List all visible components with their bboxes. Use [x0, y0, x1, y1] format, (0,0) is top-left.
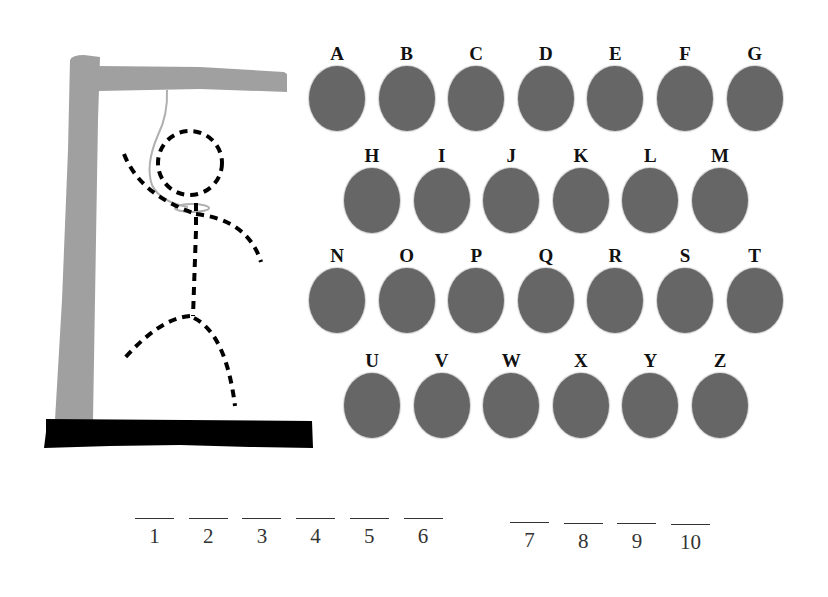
letter-button-p[interactable]: P [447, 246, 505, 336]
slot-underline [189, 518, 228, 519]
letter-label: N [308, 246, 366, 266]
gallows-base-icon [44, 419, 313, 448]
letter-circle-icon[interactable] [692, 168, 748, 233]
letter-circle-icon[interactable] [587, 268, 643, 333]
letter-circle-icon[interactable] [727, 66, 783, 131]
slot-underline [242, 518, 281, 519]
letter-circle-icon[interactable] [727, 268, 783, 333]
letter-circle-icon[interactable] [309, 66, 365, 131]
slot-number: 3 [242, 525, 281, 547]
letter-circle-icon[interactable] [483, 168, 539, 233]
gallows-post-icon [55, 55, 100, 420]
letter-label: O [378, 246, 436, 266]
letter-circle-icon[interactable] [518, 66, 574, 131]
letter-circle-icon[interactable] [414, 168, 470, 233]
letter-button-s[interactable]: S [656, 246, 714, 336]
slot-underline [296, 518, 335, 519]
letter-circle-icon[interactable] [553, 168, 609, 233]
letter-button-g[interactable]: G [726, 44, 784, 134]
letter-label: E [586, 44, 644, 64]
letter-label: F [656, 44, 714, 64]
hangman-game: ABCDEFGHIJKLMNOPQRSTUVWXYZ 12345678910 [0, 0, 828, 597]
right-leg-icon [194, 318, 235, 406]
letter-button-f[interactable]: F [656, 44, 714, 134]
letter-button-t[interactable]: T [726, 246, 784, 336]
letter-button-z[interactable]: Z [691, 351, 749, 441]
letter-label: Q [517, 246, 575, 266]
letter-circle-icon[interactable] [448, 66, 504, 131]
letter-button-r[interactable]: R [586, 246, 644, 336]
letter-label: B [378, 44, 436, 64]
letter-circle-icon[interactable] [448, 268, 504, 333]
letter-button-j[interactable]: J [482, 146, 540, 236]
letter-circle-icon[interactable] [414, 373, 470, 438]
letter-circle-icon[interactable] [622, 168, 678, 233]
letter-button-w[interactable]: W [482, 351, 540, 441]
letter-label: Y [621, 351, 679, 371]
letter-button-c[interactable]: C [447, 44, 505, 134]
right-arm-icon [196, 214, 261, 262]
letter-circle-icon[interactable] [379, 268, 435, 333]
letter-button-l[interactable]: L [621, 146, 679, 236]
gallows-beam-icon [98, 66, 287, 92]
slot-underline [350, 518, 389, 519]
letter-button-e[interactable]: E [586, 44, 644, 134]
letter-circle-icon[interactable] [692, 373, 748, 438]
letter-button-q[interactable]: Q [517, 246, 575, 336]
letter-label: Z [691, 351, 749, 371]
letter-label: H [343, 146, 401, 166]
letter-button-k[interactable]: K [552, 146, 610, 236]
letter-circle-icon[interactable] [657, 268, 713, 333]
head-icon [158, 131, 222, 195]
letter-button-b[interactable]: B [378, 44, 436, 134]
letter-label: P [447, 246, 505, 266]
slot-underline [135, 518, 174, 519]
letter-button-v[interactable]: V [413, 351, 471, 441]
letter-circle-icon[interactable] [553, 373, 609, 438]
slot-number: 2 [189, 525, 228, 547]
letter-label: U [343, 351, 401, 371]
slot-number: 5 [350, 525, 389, 547]
slot-underline [564, 523, 603, 524]
letter-label: K [552, 146, 610, 166]
letter-circle-icon[interactable] [379, 66, 435, 131]
letter-label: W [482, 351, 540, 371]
letter-button-x[interactable]: X [552, 351, 610, 441]
noose-loop-icon [175, 204, 209, 212]
letter-button-o[interactable]: O [378, 246, 436, 336]
letter-circle-icon[interactable] [622, 373, 678, 438]
letter-label: V [413, 351, 471, 371]
slot-number: 7 [510, 529, 549, 551]
slot-number: 1 [135, 525, 174, 547]
letter-label: M [691, 146, 749, 166]
slot-number: 9 [617, 530, 656, 552]
letter-label: R [586, 246, 644, 266]
letter-button-u[interactable]: U [343, 351, 401, 441]
letter-circle-icon[interactable] [657, 66, 713, 131]
letter-label: C [447, 44, 505, 64]
letter-circle-icon[interactable] [587, 66, 643, 131]
letter-label: L [621, 146, 679, 166]
letter-label: X [552, 351, 610, 371]
letter-button-n[interactable]: N [308, 246, 366, 336]
left-leg-icon [123, 316, 190, 360]
body-icon [193, 203, 196, 316]
letter-button-d[interactable]: D [517, 44, 575, 134]
letter-circle-icon[interactable] [483, 373, 539, 438]
letter-label: G [726, 44, 784, 64]
letter-circle-icon[interactable] [518, 268, 574, 333]
slot-underline [510, 522, 549, 523]
slot-number: 8 [564, 530, 603, 552]
letter-button-m[interactable]: M [691, 146, 749, 236]
letter-circle-icon[interactable] [309, 268, 365, 333]
letter-circle-icon[interactable] [344, 168, 400, 233]
letter-button-h[interactable]: H [343, 146, 401, 236]
letter-button-i[interactable]: I [413, 146, 471, 236]
slot-underline [671, 524, 710, 525]
letter-button-a[interactable]: A [308, 44, 366, 134]
letter-label: S [656, 246, 714, 266]
slot-underline [617, 523, 656, 524]
letter-circle-icon[interactable] [344, 373, 400, 438]
letter-button-y[interactable]: Y [621, 351, 679, 441]
letter-label: D [517, 44, 575, 64]
